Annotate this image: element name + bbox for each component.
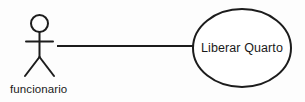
use-case-liberar-quarto[interactable]: Liberar Quarto [193,9,291,87]
use-case-label: Liberar Quarto [201,41,283,55]
actor-funcionario[interactable]: funcionario [10,15,67,95]
actor-label: funcionario [10,83,67,95]
actor-right-leg-line [40,57,55,76]
use-case-diagram-canvas: funcionario Liberar Quarto [0,0,305,102]
actor-head-icon [31,15,48,32]
uml-diagram-svg: funcionario Liberar Quarto [0,0,305,102]
actor-left-leg-line [25,57,40,76]
